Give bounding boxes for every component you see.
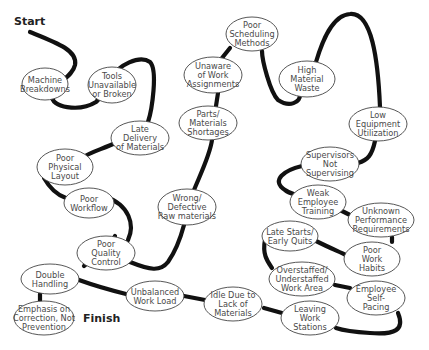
node-label-line: Control [91, 257, 121, 267]
node-label-line: Prevention [22, 322, 66, 332]
node-label-line: Requirements [353, 224, 410, 234]
node-label-line: Waste [294, 83, 319, 93]
node-machine-breakdowns: MachineBreakdowns [20, 68, 70, 100]
node-supervisors-not-supervising: SupervisorsNotSupervising [301, 147, 359, 181]
node-label-line: Pacing [363, 302, 390, 312]
node-label-line: Early Quits [268, 236, 313, 246]
node-late-delivery: LateDeliveryof Materials [111, 121, 169, 155]
node-label-line: Shortages [187, 127, 229, 137]
node-label-line: Workflow [70, 203, 108, 213]
problem-path-diagram: MachineBreakdownsToolsUnavailableor Brok… [0, 0, 429, 350]
node-parts-materials-shortages: Parts/MaterialsShortages [179, 106, 237, 140]
node-high-material-waste: HighMaterialWaste [279, 61, 335, 97]
finish-label: Finish [83, 312, 120, 325]
node-label-line: Handling [32, 279, 69, 289]
node-late-starts: Late Starts/Early Quits [262, 221, 318, 251]
node-label-line: Supervising [306, 168, 354, 178]
node-double-handling: DoubleHandling [21, 264, 79, 294]
node-label-line: Work Load [134, 296, 177, 306]
node-label-line: Breakdowns [20, 84, 70, 94]
node-label-line: Stations [293, 322, 326, 332]
node-label-line: Materials [214, 308, 252, 318]
node-label-line: Work Area [281, 283, 323, 293]
node-unknown-performance: UnknownPerformanceRequirements [348, 203, 414, 237]
node-wrong-defective-raw: Wrong/DefectiveRaw materials [158, 189, 216, 225]
node-poor-scheduling-methods: PoorSchedulingMethods [226, 17, 278, 51]
node-poor-work-habits: PoorWorkHabits [344, 242, 400, 276]
node-poor-physical-layout: PoorPhysicalLayout [37, 149, 93, 185]
node-poor-quality-control: PoorQualityControl [77, 236, 135, 270]
node-poor-workflow: PoorWorkflow [64, 188, 114, 218]
node-leaving-work-stations: LeavingWorkStations [281, 301, 339, 335]
node-label-line: Habits [359, 263, 385, 273]
node-weak-employee-training: WeakEmployeeTraining [290, 185, 346, 219]
node-unbalanced-work-load: UnbalancedWork Load [126, 281, 184, 311]
node-label-line: Training [301, 206, 334, 216]
node-label-line: Layout [51, 171, 80, 181]
node-label-line: or Broken [92, 89, 131, 99]
node-low-equipment-utilization: LowEquipmentUtilization [349, 107, 407, 141]
node-overstaffed-understaffed: Overstaffed/UnderstaffedWork Area [269, 262, 335, 296]
node-unaware-of-work: Unawareof WorkAssignments [184, 57, 242, 93]
node-idle-due-to-lack: Idle Due toLack ofMaterials [204, 287, 262, 321]
node-tools-unavailable: ToolsUnavailableor Broken [88, 67, 136, 103]
node-label-line: Assignments [187, 79, 239, 89]
node-employee-self-pacing: EmployeeSelf-Pacing [347, 281, 405, 315]
node-emphasis-on-correction: Emphasis onCorrection, NotPrevention [13, 301, 76, 335]
node-label-line: Utilization [357, 128, 398, 138]
node-label-line: Methods [235, 38, 270, 48]
node-label-line: Raw materials [158, 211, 216, 221]
node-label-line: of Materials [116, 142, 164, 152]
start-label: Start [14, 15, 45, 28]
